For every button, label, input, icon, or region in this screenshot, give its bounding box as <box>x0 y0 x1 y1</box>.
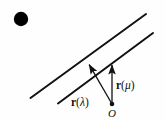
figure-canvas: r(λ) r(μ) O <box>0 0 165 121</box>
label-r-lambda-close-paren: ) <box>85 96 89 108</box>
label-r-mu: r(μ) <box>116 80 135 92</box>
origin-point-O <box>110 102 115 107</box>
label-r-lambda: r(λ) <box>71 97 89 109</box>
bullet-marker <box>14 12 28 26</box>
label-origin-O: O <box>108 108 116 119</box>
label-r-mu-close-paren: ) <box>131 79 135 91</box>
vector-r-lambda <box>89 65 112 104</box>
